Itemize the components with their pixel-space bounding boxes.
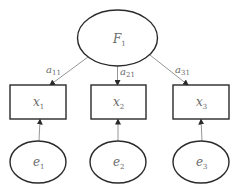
error-node-e3: e3 (173, 141, 229, 183)
observed-node-x2: x2 (91, 85, 146, 119)
error-edge-x3 (201, 120, 202, 142)
error-node-e2: e2 (90, 141, 146, 183)
error-edge-x1 (39, 120, 40, 142)
error-node-e1: e1 (10, 141, 66, 183)
factor-model-diagram: F1 x1 x2 x3 e1 e2 e3 a11 a21 a31 (0, 0, 237, 191)
observed-node-x3: x3 (173, 85, 229, 119)
latent-factor-node: F1 (78, 10, 158, 66)
loading-label-a31: a31 (175, 64, 190, 77)
observed-node-x1: x1 (10, 85, 66, 119)
loading-label-a21: a21 (120, 66, 135, 79)
loading-label-a11: a11 (46, 64, 61, 77)
